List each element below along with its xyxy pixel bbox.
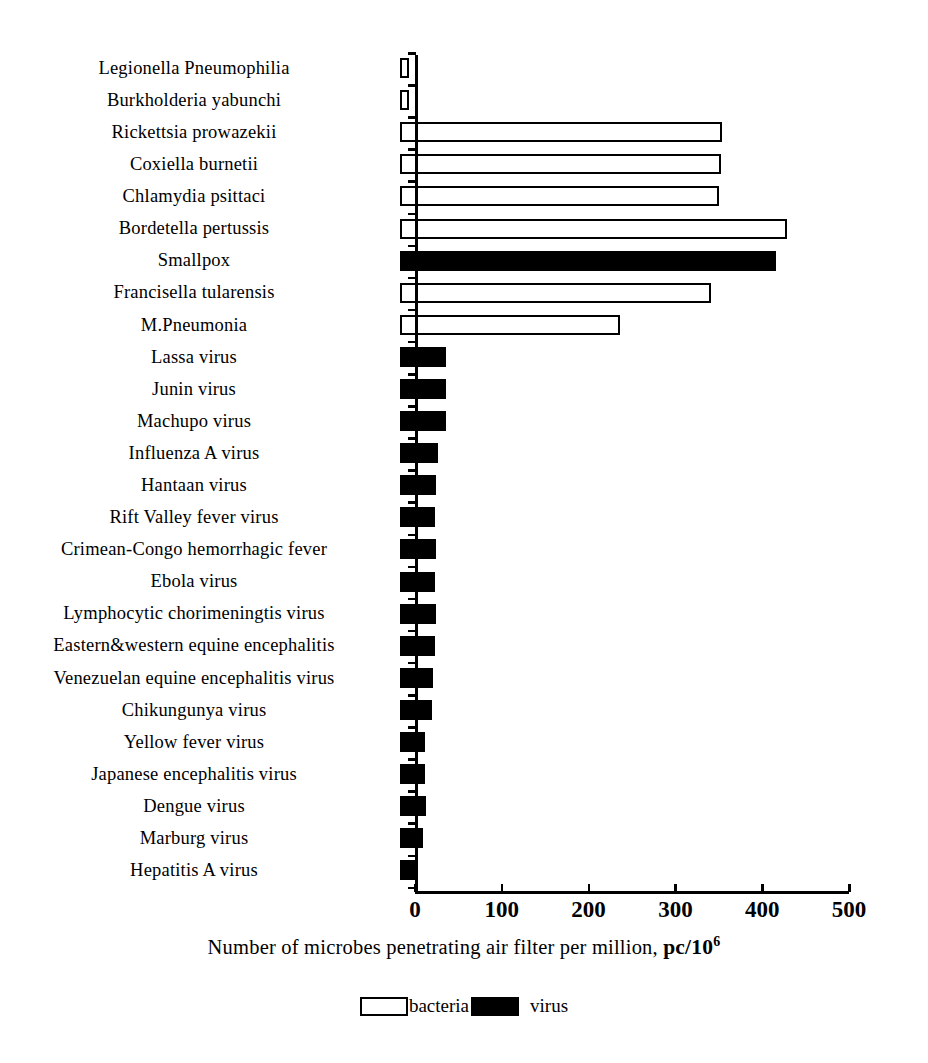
bar-virus[interactable]: [400, 732, 425, 752]
bar-chart-figure: Legionella PneumophiliaBurkholderia yabu…: [0, 0, 928, 1063]
chart-row: Venezuelan equine encephalitis virus: [0, 662, 890, 694]
chart-row: Smallpox: [0, 245, 890, 277]
category-label: M.Pneumonia: [0, 316, 400, 335]
bar-bacteria[interactable]: [400, 122, 722, 142]
chart-row: Rift Valley fever virus: [0, 501, 890, 533]
chart-row: Japanese encephalitis virus: [0, 758, 890, 790]
y-tick: [408, 598, 416, 601]
bar-virus[interactable]: [400, 379, 446, 399]
x-axis-title-exponent: 6: [713, 934, 720, 949]
bar-bacteria[interactable]: [400, 186, 719, 206]
chart-row: Ebola virus: [0, 566, 890, 598]
bar-track: [400, 694, 890, 726]
category-label: Influenza A virus: [0, 444, 400, 463]
legend-label-bacteria: bacteria: [409, 995, 471, 1017]
bar-track: [400, 341, 890, 373]
y-tick: [408, 790, 416, 793]
bar-track: [400, 469, 890, 501]
y-tick: [408, 277, 416, 280]
category-label: Venezuelan equine encephalitis virus: [0, 669, 400, 688]
chart-row: Influenza A virus: [0, 437, 890, 469]
bar-virus[interactable]: [400, 828, 423, 848]
legend-item-virus: virus: [471, 995, 568, 1017]
bar-track: [400, 854, 890, 886]
bar-bacteria[interactable]: [400, 154, 721, 174]
bar-track: [400, 790, 890, 822]
chart-row: Coxiella burnetii: [0, 148, 890, 180]
bar-virus[interactable]: [400, 764, 425, 784]
chart-row: Dengue virus: [0, 790, 890, 822]
y-tick: [408, 180, 416, 183]
y-tick: [408, 822, 416, 825]
bar-track: [400, 309, 890, 341]
bar-track: [400, 630, 890, 662]
chart-row: Machupo virus: [0, 405, 890, 437]
chart-row: Hepatitis A virus: [0, 854, 890, 886]
category-label: Legionella Pneumophilia: [0, 59, 400, 78]
x-axis-title-unit: pc/10: [663, 935, 713, 959]
x-tick: [761, 884, 764, 892]
chart-row: Lassa virus: [0, 341, 890, 373]
x-tick: [848, 884, 851, 892]
bar-virus[interactable]: [400, 443, 438, 463]
y-tick: [408, 245, 416, 248]
x-axis-title-main: Number of microbes penetrating air filte…: [208, 936, 664, 958]
y-tick: [408, 534, 416, 537]
bar-track: [400, 116, 890, 148]
bar-bacteria[interactable]: [400, 58, 409, 78]
chart-row: Yellow fever virus: [0, 726, 890, 758]
y-tick: [408, 887, 416, 890]
y-tick: [408, 566, 416, 569]
chart-row: Eastern&western equine encephalitis: [0, 630, 890, 662]
bar-virus[interactable]: [400, 347, 446, 367]
chart-row: Chikungunya virus: [0, 694, 890, 726]
y-tick: [408, 694, 416, 697]
bar-virus[interactable]: [400, 796, 426, 816]
legend-swatch-bacteria-icon: [360, 997, 408, 1016]
x-axis-title: Number of microbes penetrating air filte…: [0, 934, 928, 960]
x-tick: [501, 884, 504, 892]
legend-label-virus: virus: [520, 995, 568, 1017]
bar-track: [400, 598, 890, 630]
bar-track: [400, 533, 890, 565]
bar-track: [400, 566, 890, 598]
chart-row: Lymphocytic chorimeningtis virus: [0, 598, 890, 630]
category-label: Crimean-Congo hemorrhagic fever: [0, 540, 400, 559]
category-label: Coxiella burnetii: [0, 155, 400, 174]
category-label: Chlamydia psittaci: [0, 187, 400, 206]
bar-bacteria[interactable]: [400, 283, 711, 303]
category-label: Hantaan virus: [0, 476, 400, 495]
y-tick: [408, 726, 416, 729]
category-label: Chikungunya virus: [0, 701, 400, 720]
y-tick: [408, 373, 416, 376]
category-label: Lymphocytic chorimeningtis virus: [0, 604, 400, 623]
chart-row: Crimean-Congo hemorrhagic fever: [0, 533, 890, 565]
bar-virus[interactable]: [400, 411, 446, 431]
bar-track: [400, 501, 890, 533]
chart-row: Hantaan virus: [0, 469, 890, 501]
x-tick: [674, 884, 677, 892]
y-tick: [408, 630, 416, 633]
category-label: Machupo virus: [0, 412, 400, 431]
bar-track: [400, 212, 890, 244]
y-tick: [408, 341, 416, 344]
y-tick: [408, 309, 416, 312]
category-label: Lassa virus: [0, 348, 400, 367]
chart-row: Rickettsia prowazekii: [0, 116, 890, 148]
bar-virus[interactable]: [400, 251, 776, 271]
bar-bacteria[interactable]: [400, 315, 620, 335]
category-label: Burkholderia yabunchi: [0, 91, 400, 110]
bar-bacteria[interactable]: [400, 219, 787, 239]
y-tick: [408, 501, 416, 504]
chart-row: Francisella tularensis: [0, 277, 890, 309]
plot-area: Legionella PneumophiliaBurkholderia yabu…: [0, 52, 890, 890]
category-label: Junin virus: [0, 380, 400, 399]
chart-row: M.Pneumonia: [0, 309, 890, 341]
bar-track: [400, 758, 890, 790]
chart-row: Junin virus: [0, 373, 890, 405]
category-label: Marburg virus: [0, 829, 400, 848]
bar-track: [400, 662, 890, 694]
bar-bacteria[interactable]: [400, 90, 409, 110]
y-tick: [408, 116, 416, 119]
category-label: Hepatitis A virus: [0, 861, 400, 880]
